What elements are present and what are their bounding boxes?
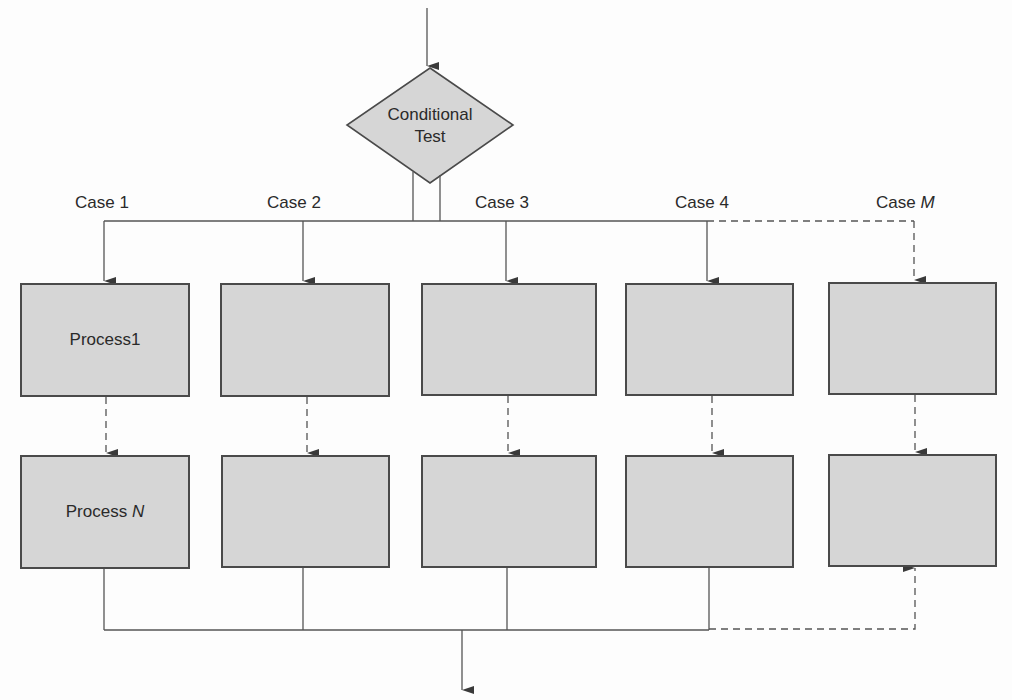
process-1-case-m [828, 282, 997, 395]
case-m-label: Case M [876, 193, 935, 213]
decision-label-line2: Test [370, 126, 490, 148]
case-4-label: Case 4 [675, 193, 729, 213]
case-2-label: Case 2 [267, 193, 321, 213]
process-n-case-3 [421, 455, 597, 568]
case-3-label: Case 3 [475, 193, 529, 213]
process-1-case-1: Process 1 [20, 283, 190, 397]
process-n-case-4 [625, 455, 794, 568]
case-1-label: Case 1 [75, 193, 129, 213]
process-n-case-m [828, 454, 997, 567]
process-n-case-2 [221, 455, 390, 568]
process-n-case-1: Process N [20, 455, 190, 569]
decision-label-line1: Conditional [370, 104, 490, 126]
decision-label: Conditional Test [370, 104, 490, 148]
process-1-case-4 [625, 283, 794, 396]
process-1-case-2 [220, 283, 390, 397]
flowchart-canvas: Conditional Test Case 1 Case 2 Case 3 Ca… [0, 0, 1012, 700]
process-1-case-3 [421, 283, 597, 396]
